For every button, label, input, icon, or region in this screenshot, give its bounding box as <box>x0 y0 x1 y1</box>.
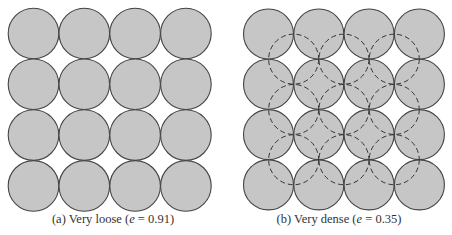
caption-value: = 0.35) <box>362 212 401 226</box>
particle-circle <box>8 8 59 59</box>
panel-very-loose <box>8 8 211 211</box>
particle-circle <box>394 9 444 59</box>
particle-circle <box>110 161 161 212</box>
particle-circle <box>294 9 344 59</box>
interstitial-dashed-circle <box>369 84 419 134</box>
interstitial-dashed-circle <box>319 34 369 84</box>
particle-circle <box>8 110 59 161</box>
particle-circle <box>161 8 212 59</box>
interstitial-dashed-circle <box>369 135 419 185</box>
caption-value: = 0.91) <box>135 212 174 226</box>
particle-circle <box>244 59 294 109</box>
particle-circle <box>110 59 161 110</box>
particle-circle <box>161 161 212 212</box>
interstitial-dashed-circle <box>269 34 319 84</box>
particle-circle <box>110 8 161 59</box>
caption-very-dense: (b) Very dense (e = 0.35) <box>226 212 452 227</box>
particle-circle <box>244 9 294 59</box>
particle-circle <box>110 110 161 161</box>
caption-very-loose: (a) Very loose (e = 0.91) <box>0 212 226 227</box>
interstitial-dashed-circle <box>319 84 369 134</box>
particle-circle <box>8 59 59 110</box>
caption-prefix: (b) Very dense ( <box>277 212 357 226</box>
particle-circle <box>244 110 294 160</box>
particle-circle <box>294 110 344 160</box>
particle-circle <box>59 161 110 212</box>
interstitial-dashed-circle <box>269 135 319 185</box>
interstitial-dashed-circle <box>369 34 419 84</box>
particle-circle <box>59 59 110 110</box>
particle-circle <box>8 161 59 212</box>
particle-circle <box>59 8 110 59</box>
particle-circle <box>59 110 110 161</box>
caption-prefix: (a) Very loose ( <box>52 212 129 226</box>
particle-circle <box>344 110 394 160</box>
interstitial-dashed-circle <box>269 84 319 134</box>
particle-circle <box>344 59 394 109</box>
particle-circle <box>394 59 444 109</box>
particle-circle <box>394 110 444 160</box>
particle-circle <box>394 160 444 210</box>
particle-circle <box>294 160 344 210</box>
interstitial-dashed-circle <box>319 135 369 185</box>
particle-circle <box>344 9 394 59</box>
particle-circle <box>161 59 212 110</box>
particle-circle <box>344 160 394 210</box>
particle-circle <box>294 59 344 109</box>
packing-diagram <box>0 0 452 235</box>
particle-circle <box>161 110 212 161</box>
particle-circle <box>244 160 294 210</box>
panel-very-dense <box>244 9 445 210</box>
